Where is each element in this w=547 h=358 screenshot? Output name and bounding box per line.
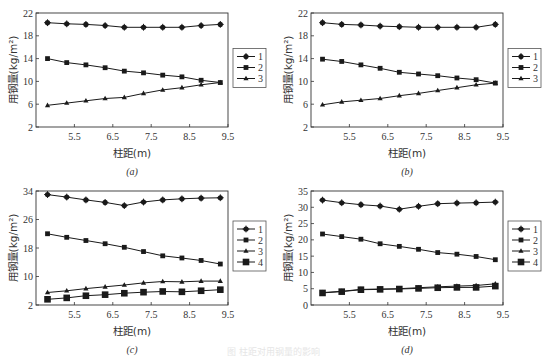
y-tick-label: 10 [23, 76, 33, 87]
panel-label: (a) [126, 166, 138, 178]
series-3 [45, 80, 223, 107]
series-3 [45, 278, 223, 294]
series-4 [319, 283, 498, 296]
legend-label: 3 [258, 246, 263, 257]
y-tick-label: 18 [23, 243, 33, 254]
legend-label: 1 [258, 224, 263, 235]
legend: 123 [233, 49, 266, 88]
chart-panel-a: 26101418225.56.57.58.59.5柱距(m)用钢量(kg/m²)… [0, 0, 273, 178]
y-tick-label: 5 [303, 283, 308, 294]
y-tick-label: 10 [298, 267, 308, 278]
legend-label: 1 [533, 51, 538, 62]
legend: 123 [508, 49, 541, 88]
y-tick-label: 15 [298, 251, 308, 262]
y-tick-label: 35 [298, 186, 308, 197]
y-tick-label: 2 [28, 122, 33, 133]
series-4 [44, 286, 223, 302]
series-2 [320, 57, 498, 86]
x-tick-label: 6.5 [107, 131, 120, 142]
chart-panel-c: 2101826345.56.57.58.59.5柱距(m)用钢量(kg/m²)(… [0, 178, 273, 356]
figure-caption: 图 柱距对用钢量的影响 [0, 345, 547, 358]
y-axis-label: 用钢量(kg/m²) [7, 214, 19, 283]
x-tick-label: 7.5 [420, 309, 433, 320]
chart-a-svg: 26101418225.56.57.58.59.5柱距(m)用钢量(kg/m²)… [0, 0, 273, 178]
legend-label: 2 [258, 235, 263, 246]
x-tick-label: 8.5 [458, 131, 471, 142]
chart-panel-d: 051015202530355.56.57.58.59.5柱距(m)用钢量(kg… [275, 178, 547, 356]
y-tick-label: 26 [23, 214, 33, 225]
series-2 [45, 56, 223, 85]
x-tick-label: 7.5 [420, 131, 433, 142]
series-1 [44, 191, 224, 209]
x-tick-label: 7.5 [145, 309, 158, 320]
y-tick-label: 6 [28, 99, 33, 110]
series-1 [44, 19, 224, 30]
legend-label: 3 [533, 73, 538, 84]
x-tick-label: 8.5 [183, 309, 196, 320]
y-tick-label: 18 [23, 30, 33, 41]
legend-label: 1 [533, 224, 538, 235]
plot-frame [311, 13, 503, 127]
legend-label: 4 [258, 257, 263, 268]
legend: 1234 [233, 221, 266, 271]
legend-label: 4 [533, 257, 538, 268]
x-tick-label: 6.5 [382, 309, 395, 320]
legend: 1234 [508, 221, 541, 271]
y-axis-label: 用钢量(kg/m²) [282, 36, 294, 105]
y-tick-label: 2 [28, 300, 33, 311]
series-2 [320, 232, 498, 263]
y-axis-label: 用钢量(kg/m²) [282, 214, 294, 283]
x-tick-label: 5.5 [343, 131, 356, 142]
y-tick-label: 25 [298, 218, 308, 229]
x-tick-label: 8.5 [183, 131, 196, 142]
y-tick-label: 22 [23, 8, 33, 19]
series-3 [320, 80, 498, 106]
plot-frame [36, 13, 228, 127]
x-tick-label: 5.5 [68, 131, 81, 142]
y-axis-label: 用钢量(kg/m²) [7, 36, 19, 105]
x-tick-label: 5.5 [68, 309, 81, 320]
y-tick-label: 14 [23, 53, 33, 64]
x-tick-label: 9.5 [222, 309, 235, 320]
x-tick-label: 9.5 [497, 309, 510, 320]
legend-label: 2 [533, 62, 538, 73]
y-tick-label: 30 [298, 202, 308, 213]
x-tick-label: 8.5 [458, 309, 471, 320]
series-1 [319, 19, 499, 30]
chart-panel-b: 26101418225.56.57.58.59.5柱距(m)用钢量(kg/m²)… [275, 0, 547, 178]
chart-d-svg: 051015202530355.56.57.58.59.5柱距(m)用钢量(kg… [275, 178, 547, 356]
legend-label: 1 [258, 51, 263, 62]
y-tick-label: 2 [303, 122, 308, 133]
y-tick-label: 20 [298, 234, 308, 245]
x-axis-label: 柱距(m) [113, 147, 151, 159]
y-tick-label: 18 [298, 30, 308, 41]
y-tick-label: 10 [298, 76, 308, 87]
x-tick-label: 9.5 [497, 131, 510, 142]
y-tick-label: 10 [23, 271, 33, 282]
x-axis-label: 柱距(m) [388, 325, 426, 337]
x-tick-label: 5.5 [343, 309, 356, 320]
legend-label: 2 [258, 62, 263, 73]
panel-label: (b) [401, 166, 413, 178]
x-axis-label: 柱距(m) [388, 147, 426, 159]
x-tick-label: 9.5 [222, 131, 235, 142]
chart-c-svg: 2101826345.56.57.58.59.5柱距(m)用钢量(kg/m²)(… [0, 178, 273, 356]
y-tick-label: 22 [298, 8, 308, 19]
series-2 [45, 231, 223, 266]
y-tick-label: 6 [303, 99, 308, 110]
x-tick-label: 7.5 [145, 131, 158, 142]
legend-label: 3 [258, 73, 263, 84]
legend-label: 2 [533, 235, 538, 246]
x-axis-label: 柱距(m) [113, 325, 151, 337]
y-tick-label: 0 [303, 300, 308, 311]
series-1 [319, 197, 499, 213]
y-tick-label: 34 [23, 186, 33, 197]
legend-label: 3 [533, 246, 538, 257]
x-tick-label: 6.5 [107, 309, 120, 320]
chart-b-svg: 26101418225.56.57.58.59.5柱距(m)用钢量(kg/m²)… [275, 0, 547, 178]
y-tick-label: 14 [298, 53, 308, 64]
x-tick-label: 6.5 [382, 131, 395, 142]
